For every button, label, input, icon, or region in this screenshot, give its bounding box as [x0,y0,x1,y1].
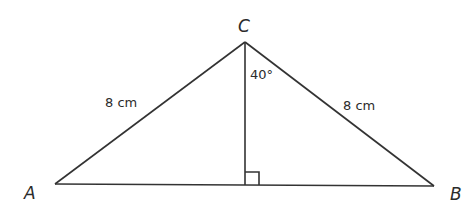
vertex-label-a: A [23,183,36,203]
side-ac-length: 8 cm [105,95,137,110]
right-angle-marker [245,172,259,185]
vertex-label-c: C [238,16,250,36]
side-ac [55,42,245,184]
side-bc-length: 8 cm [343,98,375,113]
vertex-label-b: B [450,184,462,204]
angle-c-measure: 40° [250,67,273,82]
triangle-diagram: C A B 8 cm 8 cm 40° [0,0,467,223]
side-bc [245,42,434,186]
